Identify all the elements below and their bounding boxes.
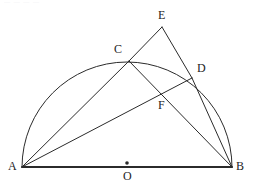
segment-ac <box>22 61 129 167</box>
semicircle-arc <box>22 62 232 167</box>
vertex-label-c: C <box>114 43 122 55</box>
segment-ad <box>22 78 192 167</box>
segment-ed <box>162 27 192 78</box>
vertex-label-d: D <box>197 62 206 74</box>
geometry-canvas <box>0 0 253 185</box>
vertex-label-f: F <box>158 99 165 111</box>
vertex-label-e: E <box>158 9 165 21</box>
segment-ce <box>129 27 162 61</box>
vertex-label-o: O <box>123 170 132 182</box>
vertex-label-b: B <box>236 160 244 172</box>
vertex-label-a: A <box>8 160 17 172</box>
geometry-figure: — — — — A B C D E F O <box>0 0 253 185</box>
segment-db <box>192 78 232 167</box>
center-point-dot <box>125 161 129 165</box>
